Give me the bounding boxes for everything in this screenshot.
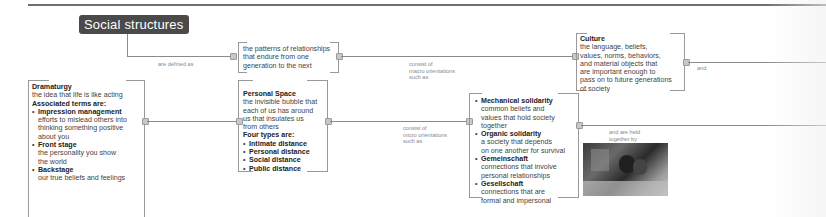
term: Backstage <box>38 166 74 174</box>
term-desc: connections that are <box>481 188 575 196</box>
term-desc: connections that involve <box>481 163 575 171</box>
personal-space-desc: the invisible bubble that <box>243 98 329 106</box>
term-desc: values that hold society <box>481 114 575 122</box>
term-desc: our true beliefs and feelings <box>38 174 144 182</box>
term-desc: efforts to mislead others into <box>38 116 144 124</box>
connector-label-held-together: and are held together by <box>609 129 640 142</box>
dramaturgy-heading: Dramaturgy <box>32 83 72 91</box>
connector-line <box>341 56 573 57</box>
culture-line: of society <box>580 85 690 93</box>
term: Impression management <box>38 108 122 116</box>
list-item: Gemeinschaft connections that involve pe… <box>475 155 575 180</box>
term: Mechanical solidarity <box>481 97 553 105</box>
list-item: Gesellschaft connections that are formal… <box>475 180 575 205</box>
culture-line: and material objects that <box>580 60 690 68</box>
label-line: such as <box>409 74 455 81</box>
personal-space-desc: us that insulates us <box>243 115 329 123</box>
top-rule <box>28 4 826 6</box>
culture-line: values, norms, behaviors, <box>580 52 690 60</box>
list-item: Personal distance <box>243 148 329 156</box>
label-line: such as <box>403 138 447 145</box>
culture-line: pass on to future generations <box>580 76 690 84</box>
culture-node[interactable]: Culture the language, beliefs, values, n… <box>580 35 690 93</box>
label-line: and are held <box>609 129 640 136</box>
term: Public distance <box>249 165 301 173</box>
definition-line: that endure from one <box>243 53 343 61</box>
list-item: Social distance <box>243 156 329 164</box>
connector-label-and: and <box>697 65 706 72</box>
photo-person <box>633 159 647 175</box>
list-item: Mechanical solidarity common beliefs and… <box>475 97 575 130</box>
term-desc: a society that depends <box>481 138 575 146</box>
term-desc: thinking something positive <box>38 124 144 132</box>
term-desc: formal and impersonal <box>481 197 575 205</box>
term: Social distance <box>249 156 301 164</box>
term: Personal distance <box>249 148 310 156</box>
photo-detail <box>591 149 609 171</box>
personal-space-heading: Personal Space <box>243 90 296 98</box>
term-desc: about you <box>38 133 144 141</box>
dramaturgy-node[interactable]: Dramaturgy the idea that life is like ac… <box>32 83 144 183</box>
label-line: together by <box>609 136 640 143</box>
dramaturgy-subheading: Associated terms are: <box>32 100 106 108</box>
connector-line <box>330 121 467 122</box>
personal-space-subheading: Four types are: <box>243 131 294 139</box>
list-item: Impression management efforts to mislead… <box>32 108 144 141</box>
definition-line: generation to the next <box>243 62 343 70</box>
personal-space-desc: from others <box>243 123 329 131</box>
culture-line: are important enough to <box>580 68 690 76</box>
term: Gemeinschaft <box>481 155 528 163</box>
connector-line <box>127 34 128 56</box>
list-item: Organic solidarity a society that depend… <box>475 130 575 155</box>
term: Gesellschaft <box>481 180 523 188</box>
term-desc: on one another for survival <box>481 147 575 155</box>
dramaturgy-desc: the idea that life is like acting <box>32 91 144 99</box>
term-desc: personal relationships <box>481 172 575 180</box>
list-item: Intimate distance <box>243 140 329 148</box>
connector-dot <box>236 118 243 125</box>
title-node[interactable]: Social structures <box>79 15 189 34</box>
connector-label-defined-as: are defined as <box>158 61 193 68</box>
term-desc: common beliefs and <box>481 105 575 113</box>
list-item: Front stage the personality you show the… <box>32 141 144 166</box>
connector-label-macro: consist of macro orientations such as <box>409 61 455 81</box>
connector-dot <box>230 53 237 60</box>
connector-line <box>127 56 233 57</box>
term: Organic solidarity <box>481 130 541 138</box>
connector-line <box>147 121 239 122</box>
term: Intimate distance <box>249 140 307 148</box>
culture-line: the language, beliefs, <box>580 43 690 51</box>
definition-node[interactable]: the patterns of relationships that endur… <box>243 45 343 70</box>
students-photo <box>583 143 668 196</box>
definition-line: the patterns of relationships <box>243 45 343 53</box>
list-item: Backstage our true beliefs and feelings <box>32 166 144 183</box>
term: Front stage <box>38 141 77 149</box>
term-desc: the personality you show <box>38 149 144 157</box>
term-desc: the world <box>38 158 144 166</box>
photo-table <box>583 181 668 196</box>
connector-label-micro: consist of micro orientations such as <box>403 125 447 145</box>
list-item: Public distance <box>243 165 329 173</box>
term-desc: together <box>481 122 575 130</box>
personal-space-desc: each of us has around <box>243 107 329 115</box>
culture-heading: Culture <box>580 35 605 43</box>
personal-space-node[interactable]: Personal Space the invisible bubble that… <box>243 90 329 173</box>
page-edge-shadow <box>766 0 826 217</box>
solidarity-node[interactable]: Mechanical solidarity common beliefs and… <box>475 97 575 205</box>
